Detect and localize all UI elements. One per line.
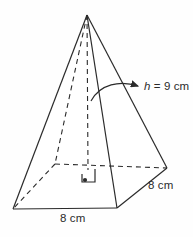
pyramid-drawing: [0, 0, 193, 237]
depth-label: 8 cm: [148, 179, 173, 191]
square-pyramid-figure: h = 9 cm 8 cm 8 cm: [0, 0, 193, 237]
base-center-dot: [83, 178, 87, 182]
width-label: 8 cm: [60, 212, 85, 224]
height-label: h = 9 cm: [144, 80, 189, 92]
height-value: = 9 cm: [151, 80, 190, 92]
